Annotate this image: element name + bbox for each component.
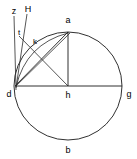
geometry-diagram: z H t k a d h g b (0, 0, 137, 159)
label-d: d (6, 89, 11, 99)
label-g: g (126, 89, 131, 99)
figure-canvas: z H t k a d h g b (0, 0, 137, 159)
label-h: h (65, 90, 70, 100)
label-t: t (18, 28, 21, 37)
label-a: a (65, 15, 70, 25)
label-z: z (12, 6, 17, 16)
label-H: H (25, 4, 32, 14)
label-b: b (65, 145, 70, 155)
